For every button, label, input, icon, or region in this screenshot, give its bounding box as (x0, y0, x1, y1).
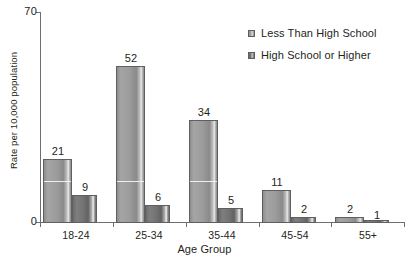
bar-value-25-34-less-than-high-school: 52 (125, 52, 137, 64)
bar-gridline-2a (190, 181, 217, 182)
bar-value-55-plus-high-school-or-higher: 1 (374, 209, 380, 221)
bar-value-45-54-less-than-high-school: 11 (271, 176, 283, 188)
legend: Less Than High School High School or Hig… (248, 24, 377, 68)
legend-item-less-than-high-school[interactable]: Less Than High School (248, 24, 377, 42)
legend-swatch-icon-high-school-or-higher (248, 52, 255, 59)
legend-label-high-school-or-higher: High School or Higher (261, 49, 371, 61)
bar-45-54-less-than-high-school[interactable] (262, 190, 291, 223)
bar-value-45-54-high-school-or-higher: 2 (301, 203, 307, 215)
bar-value-18-24-less-than-high-school: 21 (52, 145, 64, 157)
bar-value-25-34-high-school-or-higher: 6 (155, 191, 161, 203)
bar-25-34-less-than-high-school[interactable] (116, 66, 145, 223)
bar-chart: 70 0 Rate per 10,000 population 18-24 25… (0, 0, 409, 261)
bar-55-plus-less-than-high-school[interactable] (335, 217, 364, 223)
legend-label-less-than-high-school: Less Than High School (261, 27, 377, 39)
bar-45-54-high-school-or-higher[interactable] (291, 217, 316, 223)
bar-18-24-high-school-or-higher[interactable] (72, 195, 97, 223)
bar-value-35-44-high-school-or-higher: 5 (228, 194, 234, 206)
bar-35-44-high-school-or-higher[interactable] (218, 208, 243, 223)
bar-gridline-1a (117, 181, 144, 182)
bar-35-44-less-than-high-school[interactable] (189, 120, 218, 223)
legend-item-high-school-or-higher[interactable]: High School or Higher (248, 46, 377, 64)
bar-gridline-0a (44, 181, 71, 182)
bar-value-35-44-less-than-high-school: 34 (198, 106, 210, 118)
bar-value-18-24-high-school-or-higher: 9 (82, 181, 88, 193)
legend-swatch-icon-less-than-high-school (248, 30, 255, 37)
bar-18-24-less-than-high-school[interactable] (43, 159, 72, 223)
bar-value-55-plus-less-than-high-school: 2 (347, 203, 353, 215)
bar-25-34-high-school-or-higher[interactable] (145, 205, 170, 223)
